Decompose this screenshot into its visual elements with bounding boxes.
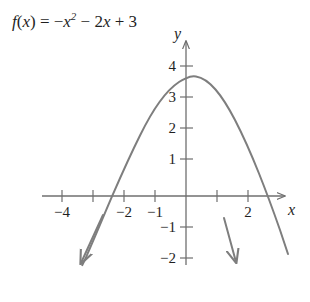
x-axis-label: x xyxy=(288,202,295,218)
y-tick-label-1: 1 xyxy=(150,152,176,167)
y-tick-label--1: −1 xyxy=(145,220,176,235)
graph-figure: f(x) = −x2 − 2x + 3 xyxy=(0,0,310,302)
y-tick-label-3: 3 xyxy=(150,90,176,105)
y-tick-label-2: 2 xyxy=(150,121,176,136)
parabola-curve xyxy=(82,76,288,265)
x-tick-label--2: −2 xyxy=(116,205,132,220)
y-tick-label--2: −2 xyxy=(145,251,176,266)
y-tick-label-4: 4 xyxy=(150,59,176,74)
curve-left-arrowhead xyxy=(81,215,103,263)
x-tick-label-2: 2 xyxy=(244,205,252,220)
x-tick-label--4: −4 xyxy=(54,205,70,220)
y-axis-label: y xyxy=(174,26,181,42)
curve-right-arrowhead xyxy=(224,218,236,262)
